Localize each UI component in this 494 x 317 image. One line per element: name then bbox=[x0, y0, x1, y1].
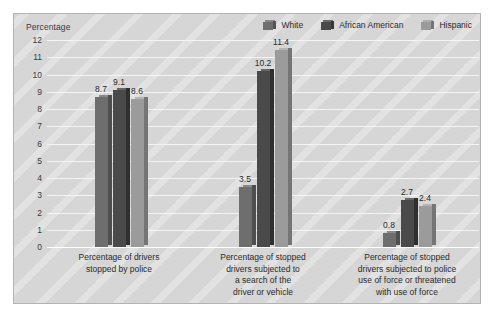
x-axis-label-line: Percentage of stopped bbox=[335, 252, 479, 264]
bar-value-label: 9.1 bbox=[113, 77, 125, 87]
y-axis-tick-label: 0 bbox=[37, 242, 42, 252]
legend-label: Hispanic bbox=[439, 20, 472, 30]
bar-value-label: 3.5 bbox=[239, 174, 251, 184]
bar-front-face bbox=[383, 233, 396, 247]
swatch-face bbox=[331, 21, 334, 29]
x-axis-label-group-1: Percentage of driversstopped by police bbox=[47, 252, 191, 275]
legend-item-hispanic: Hispanic bbox=[421, 20, 472, 30]
bar-front-face bbox=[95, 97, 108, 247]
swatch-face bbox=[421, 22, 431, 30]
y-axis-tick-label: 7 bbox=[37, 121, 42, 131]
swatch-face bbox=[431, 21, 434, 29]
plot-area: 12111098765432108.73.50.89.110.22.78.611… bbox=[47, 40, 479, 247]
y-axis-tick-label: 8 bbox=[37, 104, 42, 114]
bar-side-face bbox=[414, 198, 418, 245]
bar-value-label: 10.2 bbox=[255, 58, 272, 68]
x-axis-label-line: stopped by police bbox=[47, 264, 191, 276]
x-axis-label-group-2: Percentage of stoppeddrivers subjected t… bbox=[191, 252, 335, 298]
x-axis-label-line: drivers subjected to bbox=[191, 264, 335, 276]
bar-value-label: 2.4 bbox=[419, 193, 431, 203]
bar-side-face bbox=[288, 48, 292, 245]
bar-hispanic-group-3: 2.4 bbox=[419, 206, 432, 247]
x-axis-label-line: with use of force bbox=[335, 287, 479, 299]
bar-african-american-group-1: 9.1 bbox=[113, 90, 126, 247]
y-axis-tick-label: 4 bbox=[37, 173, 42, 183]
legend-swatch-icon bbox=[263, 20, 276, 30]
bar-front-face bbox=[113, 90, 126, 247]
swatch-face bbox=[263, 22, 273, 30]
bar-side-face bbox=[396, 231, 400, 245]
bar-front-face bbox=[257, 71, 270, 247]
bar-front-face bbox=[275, 50, 288, 247]
bar-value-label: 2.7 bbox=[401, 187, 413, 197]
chart-legend: WhiteAfrican AmericanHispanic bbox=[263, 20, 472, 30]
bar-side-face bbox=[108, 95, 112, 245]
bar-value-label: 8.6 bbox=[131, 86, 143, 96]
y-axis-tick-label: 11 bbox=[33, 52, 42, 62]
x-axis-label-line: Percentage of stopped bbox=[191, 252, 335, 264]
swatch-face bbox=[321, 22, 331, 30]
gridline bbox=[47, 247, 479, 248]
y-axis-tick-label: 12 bbox=[33, 35, 42, 45]
bar-white-group-1: 8.7 bbox=[95, 97, 108, 247]
x-axis-label-group-3: Percentage of stoppeddrivers subjected t… bbox=[335, 252, 479, 298]
y-axis-tick-label: 5 bbox=[37, 156, 42, 166]
legend-swatch-icon bbox=[421, 20, 434, 30]
bar-side-face bbox=[252, 185, 256, 245]
x-axis-label-line: use of force or threatened bbox=[335, 275, 479, 287]
x-axis-label-line: drivers subjected to police bbox=[335, 264, 479, 276]
y-axis-tick-label: 6 bbox=[37, 139, 42, 149]
bar-hispanic-group-2: 11.4 bbox=[275, 50, 288, 247]
y-axis-tick-label: 2 bbox=[37, 208, 42, 218]
bar-value-label: 8.7 bbox=[95, 84, 107, 94]
legend-label: African American bbox=[339, 20, 403, 30]
bar-side-face bbox=[144, 97, 148, 245]
bar-hispanic-group-1: 8.6 bbox=[131, 99, 144, 247]
y-axis-tick-label: 1 bbox=[37, 225, 42, 235]
bar-side-face bbox=[270, 69, 274, 245]
bar-side-face bbox=[126, 88, 130, 245]
gridline bbox=[47, 40, 479, 41]
y-axis-tick-label: 10 bbox=[33, 70, 42, 80]
swatch-face bbox=[273, 21, 276, 29]
bar-chart: Percentage WhiteAfrican AmericanHispanic… bbox=[13, 13, 481, 304]
y-axis-tick-label: 9 bbox=[37, 87, 42, 97]
x-axis-label-line: Percentage of drivers bbox=[47, 252, 191, 264]
bar-value-label: 0.8 bbox=[383, 220, 395, 230]
x-axis-category-labels: Percentage of driversstopped by policePe… bbox=[47, 252, 479, 304]
bar-value-label: 11.4 bbox=[273, 37, 289, 47]
bar-african-american-group-2: 10.2 bbox=[257, 71, 270, 247]
legend-item-white: White bbox=[263, 20, 303, 30]
x-axis-label-line: a search of the bbox=[191, 275, 335, 287]
bar-front-face bbox=[239, 187, 252, 247]
bar-front-face bbox=[401, 200, 414, 247]
legend-label: White bbox=[281, 20, 303, 30]
bar-front-face bbox=[419, 206, 432, 247]
bar-side-face bbox=[432, 204, 436, 245]
bar-african-american-group-3: 2.7 bbox=[401, 200, 414, 247]
x-axis-label-line: driver or vehicle bbox=[191, 287, 335, 299]
legend-item-african-american: African American bbox=[321, 20, 403, 30]
y-axis-tick-label: 3 bbox=[37, 190, 42, 200]
y-axis-title: Percentage bbox=[26, 22, 70, 32]
bar-white-group-3: 0.8 bbox=[383, 233, 396, 247]
legend-swatch-icon bbox=[321, 20, 334, 30]
bar-front-face bbox=[131, 99, 144, 247]
bar-white-group-2: 3.5 bbox=[239, 187, 252, 247]
